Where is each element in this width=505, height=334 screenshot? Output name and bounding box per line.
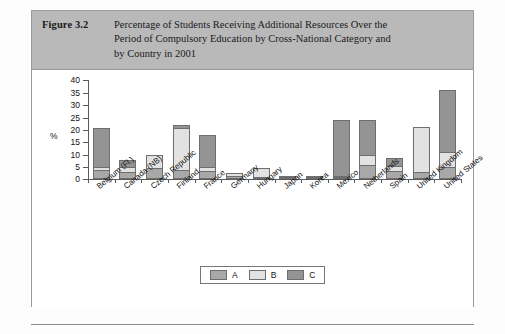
x-tick <box>88 179 89 183</box>
y-tick-label: 5 <box>32 163 80 172</box>
legend-label-a: A <box>232 270 238 280</box>
x-tick <box>248 179 249 183</box>
bar-segment-c <box>93 128 110 168</box>
x-tick <box>221 179 222 183</box>
chart-legend: A B C <box>200 266 325 284</box>
y-tick-label: 30 <box>32 101 80 110</box>
figure-title-line-1: Percentage of Students Receiving Additio… <box>114 18 463 32</box>
y-tick-label: 0 <box>32 175 80 184</box>
y-tick-label: 15 <box>32 138 80 147</box>
legend-swatch-b <box>249 270 266 280</box>
legend-item-b: B <box>249 270 277 280</box>
legend-item-a: A <box>210 270 238 280</box>
bar-segment-c <box>439 90 456 152</box>
x-tick <box>141 179 142 183</box>
bar-segment-c <box>359 120 376 155</box>
x-tick <box>354 179 355 183</box>
x-tick <box>381 179 382 183</box>
chart-area: % 0510152025303540 Belgium (Fl.)Canada (… <box>32 70 473 308</box>
bar-segment-b <box>359 155 376 165</box>
x-tick <box>434 179 435 183</box>
figure-container: Figure 3.2 Percentage of Students Receiv… <box>31 10 474 307</box>
bar-group <box>333 120 350 179</box>
bar-segment-c <box>199 135 216 167</box>
bar-group <box>359 120 376 179</box>
figure-caption-bar: Figure 3.2 Percentage of Students Receiv… <box>32 11 473 70</box>
page-bottom-rule <box>31 324 474 325</box>
legend-swatch-c <box>287 270 304 280</box>
y-tick-label: 10 <box>32 151 80 160</box>
figure-number: Figure 3.2 <box>42 18 114 32</box>
figure-title: Percentage of Students Receiving Additio… <box>114 18 463 61</box>
plot-region: % 0510152025303540 Belgium (Fl.)Canada (… <box>32 70 473 308</box>
x-tick <box>275 179 276 183</box>
x-tick <box>328 179 329 183</box>
y-tick-label: 20 <box>32 126 80 135</box>
legend-item-c: C <box>287 270 315 280</box>
legend-label-b: B <box>271 270 277 280</box>
x-tick <box>168 179 169 183</box>
bar-segment-c <box>333 120 350 176</box>
figure-page: Figure 3.2 Percentage of Students Receiv… <box>0 0 505 334</box>
bar-segment-b <box>413 127 430 172</box>
figure-title-line-2: Period of Compulsory Education by Cross-… <box>114 32 463 46</box>
figure-title-line-3: by Country in 2001 <box>114 47 463 61</box>
legend-label-c: C <box>309 270 315 280</box>
x-tick <box>408 179 409 183</box>
bar-group <box>413 127 430 179</box>
legend-swatch-a <box>210 270 227 280</box>
y-tick-label: 35 <box>32 89 80 98</box>
x-tick <box>461 179 462 183</box>
y-tick-label: 40 <box>32 76 80 85</box>
bar-group <box>93 128 110 180</box>
x-tick <box>195 179 196 183</box>
x-tick <box>301 179 302 183</box>
x-tick <box>115 179 116 183</box>
y-tick-label: 25 <box>32 114 80 123</box>
